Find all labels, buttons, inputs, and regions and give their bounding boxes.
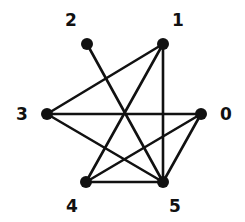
node-1 [157,38,169,50]
node-3 [41,108,53,120]
node-4 [80,176,92,188]
edge-1-3 [47,44,163,114]
node-label-4: 4 [66,196,78,216]
node-label-5: 5 [169,196,181,216]
node-2 [81,38,93,50]
node-5 [157,176,169,188]
node-label-1: 1 [172,10,184,30]
node-label-2: 2 [65,10,77,30]
node-0 [195,108,207,120]
node-label-3: 3 [16,104,28,124]
edges-group [47,44,201,182]
node-label-0: 0 [220,104,232,124]
graph-diagram: 012345 [0,0,245,222]
